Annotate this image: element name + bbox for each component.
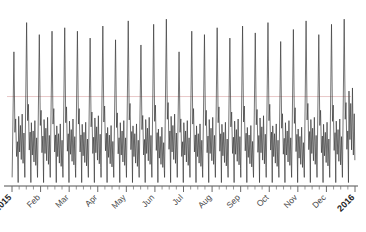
x-axis-tick-label: Mar [53, 192, 71, 210]
x-axis-tick-label: Dec [310, 192, 328, 210]
x-axis-tick-label: Jun [140, 192, 157, 209]
x-axis-tick-labels: 2015FebMarAprMayJunJulAugSepOctNovDec201… [0, 192, 356, 214]
x-axis-ticks [12, 186, 355, 192]
x-axis-tick-label: Nov [281, 192, 299, 210]
x-axis-tick-label: 2016 [335, 192, 356, 213]
x-axis-tick-label: Jul [170, 192, 185, 207]
series-path [12, 19, 355, 182]
chart-container: 2015FebMarAprMayJunJulAugSepOctNovDec201… [0, 0, 366, 232]
x-axis-tick-label: Feb [25, 192, 43, 210]
series-line-group [12, 19, 355, 182]
x-axis-tick-label: May [109, 192, 128, 211]
plot-area: 2015FebMarAprMayJunJulAugSepOctNovDec201… [0, 0, 366, 232]
x-axis-tick-label: Sep [224, 192, 242, 210]
timeseries-line-chart: 2015FebMarAprMayJunJulAugSepOctNovDec201… [0, 0, 366, 232]
x-axis-tick-label: Oct [254, 192, 271, 209]
x-axis-tick-label: Aug [196, 192, 214, 210]
x-axis-tick-label: Apr [83, 192, 100, 209]
x-axis-tick-label: 2015 [0, 192, 13, 213]
